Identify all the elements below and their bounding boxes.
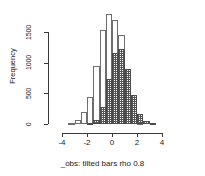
histogram-plot: Frequency 0 500 1000 1500 -4 -2 0 2 4 _o… bbox=[0, 0, 205, 176]
x-axis-title: _obs: tilted bars rho 0.8 bbox=[0, 159, 205, 168]
histogram-bar bbox=[150, 123, 156, 125]
histogram-bars bbox=[0, 0, 205, 176]
